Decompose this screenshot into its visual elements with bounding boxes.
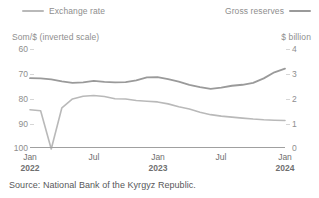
line-swatch-icon-exchange-rate: [22, 10, 44, 12]
line-swatch-icon-gross-reserves: [289, 10, 311, 12]
left-axis-tick-90: 90: [8, 119, 28, 129]
source-note: Source: National Bank of the Kyrgyz Repu…: [9, 180, 196, 190]
right-axis-tick-1: 1: [292, 119, 312, 129]
right-axis-tick-2: 2: [292, 94, 312, 104]
chart-legend: Exchange rate Gross reserves: [0, 6, 319, 22]
right-tick-mark-2: [286, 99, 290, 100]
left-axis-tick-70: 70: [8, 69, 28, 79]
x-tick-jan-2023: Jan 2023: [130, 152, 186, 173]
x-axis-baseline: [30, 147, 285, 148]
x-axis-labels: Jan 2022 Jul Jan 2023 Jul Jan 2024: [0, 152, 319, 178]
legend-item-exchange-rate: Exchange rate: [22, 6, 105, 16]
line-series-gross-reserves: [30, 69, 285, 89]
right-axis-tick-3: 3: [292, 69, 312, 79]
x-tick-jan-2024: Jan 2024: [257, 152, 313, 173]
right-tick-mark-1: [286, 124, 290, 125]
plot-area: [30, 46, 285, 148]
legend-label-exchange-rate: Exchange rate: [49, 6, 105, 16]
x-tick-jan-2022: Jan 2022: [2, 152, 58, 173]
exchange-rate-reserves-chart: Exchange rate Gross reserves Som/$ (inve…: [0, 0, 319, 198]
right-tick-mark-3: [286, 74, 290, 75]
right-axis-unit-label: $ billion: [281, 32, 311, 42]
right-tick-mark-4: [286, 49, 290, 50]
line-series-exchange-rate: [30, 96, 285, 149]
legend-item-gross-reserves: Gross reserves: [225, 6, 311, 16]
x-tick-jul-2022: Jul: [66, 152, 122, 163]
left-axis-tick-80: 80: [8, 94, 28, 104]
left-axis-unit-label: Som/$ (inverted scale): [12, 32, 99, 42]
legend-label-gross-reserves: Gross reserves: [225, 6, 284, 16]
series-canvas: [30, 46, 285, 148]
left-axis-tick-60: 60: [8, 44, 28, 54]
x-tick-jul-2023: Jul: [193, 152, 249, 163]
right-axis-tick-4: 4: [292, 44, 312, 54]
